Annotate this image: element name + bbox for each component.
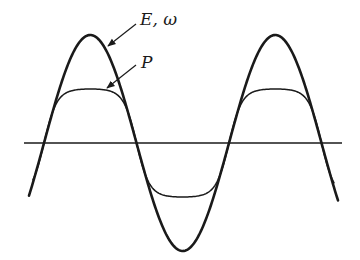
arrow-p — [107, 65, 136, 88]
arrow-e-omega — [108, 24, 136, 46]
label-e-omega: E, ω — [139, 9, 177, 29]
label-p: P — [140, 52, 153, 72]
waveform-diagram: E, ω P — [0, 0, 360, 260]
